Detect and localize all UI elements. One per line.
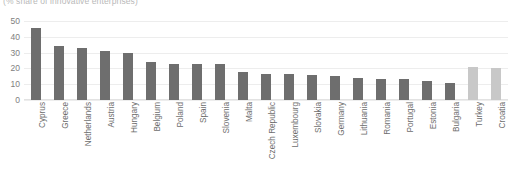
- chart-subtitle: (% share of innovative enterprises): [3, 0, 138, 6]
- x-axis-tick-label: Bulgaria: [453, 102, 461, 132]
- x-axis-tick-label: Germany: [338, 102, 346, 136]
- x-axis-tick-label: Malta: [246, 102, 254, 122]
- bar: [100, 51, 110, 100]
- x-axis-tick-label: Greece: [62, 102, 70, 129]
- bar-chart: (% share of innovative enterprises) 0102…: [0, 0, 511, 174]
- bar: [238, 72, 248, 100]
- bar: [422, 81, 432, 100]
- y-axis-tick-label: 50: [11, 17, 20, 26]
- bar: [353, 78, 363, 100]
- x-axis-tick-label: Portugal: [407, 102, 415, 133]
- bar: [307, 75, 317, 100]
- y-axis-tick-label: 10: [11, 80, 20, 89]
- bars-layer: [24, 21, 508, 100]
- bar: [445, 83, 455, 100]
- x-axis-tick-label: Estonia: [430, 102, 438, 129]
- x-axis-tick-label: Poland: [177, 102, 185, 128]
- x-axis-tick-label: Slovakia: [315, 102, 323, 133]
- x-axis-tick-label: Lithuania: [361, 102, 369, 135]
- y-axis-tick-label: 30: [11, 48, 20, 57]
- bar: [123, 53, 133, 100]
- y-axis-tick-label: 0: [15, 96, 20, 105]
- bar: [468, 67, 478, 100]
- x-axis-labels: CyprusGreeceNetherlandsAustriaHungaryBel…: [24, 102, 508, 174]
- x-axis-tick-label: Luxembourg: [292, 102, 300, 148]
- bar: [261, 74, 271, 100]
- x-axis-tick-label: Hungary: [131, 102, 139, 133]
- bar: [399, 79, 409, 100]
- x-axis-tick-label: Spain: [200, 102, 208, 123]
- x-axis-tick-label: Croatia: [499, 102, 507, 128]
- bar: [77, 48, 87, 100]
- bar: [215, 64, 225, 100]
- y-axis-tick-label: 20: [11, 64, 20, 73]
- bar: [491, 68, 501, 100]
- x-axis-tick-label: Czech Republic: [269, 102, 277, 159]
- bar: [376, 79, 386, 100]
- x-axis-tick-label: Romania: [384, 102, 392, 135]
- x-axis-tick-label: Turkey: [476, 102, 484, 127]
- x-axis-tick-label: Slovenia: [223, 102, 231, 133]
- gridline: [24, 100, 508, 101]
- y-axis: 01020304050: [0, 21, 20, 100]
- bar: [330, 76, 340, 100]
- x-axis-tick-label: Netherlands: [85, 102, 93, 146]
- bar: [146, 62, 156, 100]
- bar: [284, 74, 294, 100]
- y-axis-tick-label: 40: [11, 33, 20, 42]
- x-axis-tick-label: Belgium: [154, 102, 162, 132]
- bar: [169, 64, 179, 100]
- bar: [31, 28, 41, 100]
- x-axis-tick-label: Cyprus: [39, 102, 47, 128]
- bar: [192, 64, 202, 100]
- x-axis-tick-label: Austria: [108, 102, 116, 127]
- bar: [54, 46, 64, 100]
